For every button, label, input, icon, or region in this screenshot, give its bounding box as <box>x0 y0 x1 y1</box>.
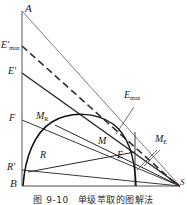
curve-label-r: R <box>40 150 46 160</box>
figure-caption-text: 单级萃取的图解法 <box>78 195 154 205</box>
ternary-extraction-diagram <box>0 0 187 205</box>
curve-label-m: M <box>98 136 106 146</box>
vertex-label-b: B <box>10 178 17 189</box>
line-rprime-to-s <box>22 170 180 186</box>
axis-label-e-prime-max-sub: max <box>9 44 19 51</box>
axis-label-e-prime-max: E′max <box>1 40 19 50</box>
axis-label-f: F <box>9 113 15 123</box>
curve-label-m-e-sub: E <box>163 138 167 145</box>
curve-label-e-max-sub: max <box>130 94 140 101</box>
line-eprime-to-s <box>22 73 179 185</box>
curve-label-m-e: ME <box>155 134 167 144</box>
axis-label-e-prime-prime: ′ <box>14 65 16 76</box>
figure-caption-number: 图 9-10 <box>33 195 68 205</box>
curve-label-m-r: MR <box>36 111 48 121</box>
annotation-leaders <box>116 107 160 170</box>
curve-label-e-max: Emax <box>124 90 140 100</box>
vertex-label-s: S <box>180 178 185 187</box>
axis-label-r-prime: R′ <box>7 162 15 172</box>
curve-label-e: E <box>117 150 123 160</box>
figure-caption: 图 9-10单级萃取的图解法 <box>0 193 187 205</box>
axis-label-e-prime: E′ <box>8 66 16 76</box>
axis-label-r-prime-prime: ′ <box>13 161 15 172</box>
leader-emax <box>116 107 134 134</box>
curve-label-m-r-sub: R <box>44 115 48 122</box>
figure-container: A B S E′max E′ F R′ MR R M E Emax ME 图 9… <box>0 0 187 205</box>
vertex-label-a: A <box>25 3 32 14</box>
